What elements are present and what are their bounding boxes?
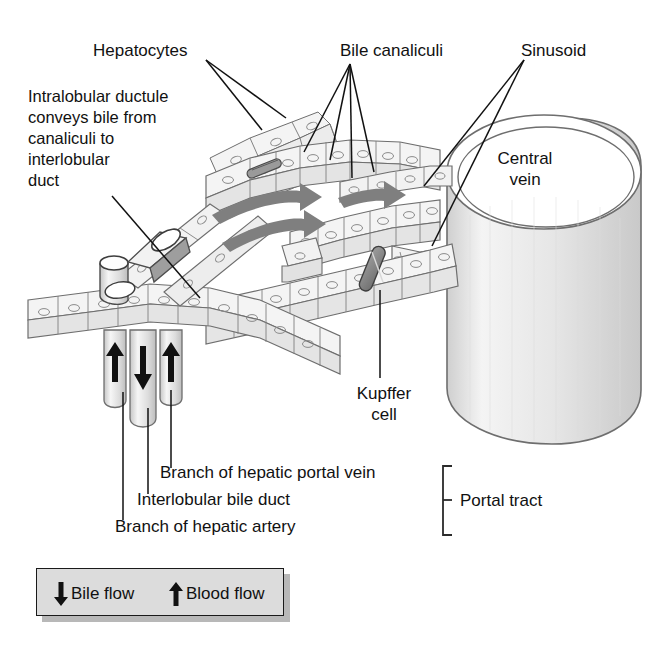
legend-blood-flow-label: Blood flow [186, 584, 264, 604]
label-portal-tract: Portal tract [460, 490, 542, 511]
hepatocyte-plate-mid-block [282, 238, 322, 282]
legend-blood-flow: Blood flow [168, 580, 264, 608]
label-sinusoid: Sinusoid [521, 40, 586, 61]
arrow-down-icon [53, 580, 69, 608]
label-bile-canaliculi: Bile canaliculi [340, 40, 443, 61]
legend-bile-flow-label: Bile flow [71, 584, 134, 604]
label-hepatocytes: Hepatocytes [93, 40, 188, 61]
label-kupffer-cell: Kupffer cell [338, 383, 430, 425]
legend-bile-flow: Bile flow [53, 580, 134, 608]
portal-tract-bracket-icon [443, 466, 452, 535]
diagram-canvas: Hepatocytes Intralobular ductule conveys… [0, 0, 650, 649]
label-interlobular-bile-duct: Interlobular bile duct [137, 489, 290, 510]
label-central-vein: Central vein [470, 148, 580, 190]
label-branch-hepatic-portal-vein: Branch of hepatic portal vein [160, 462, 375, 483]
label-intralobular-ductule: Intralobular ductule conveys bile from c… [28, 86, 168, 191]
arrow-up-icon [168, 580, 184, 608]
legend-box: Bile flow Blood flow [36, 568, 284, 616]
label-branch-hepatic-artery: Branch of hepatic artery [115, 516, 295, 537]
